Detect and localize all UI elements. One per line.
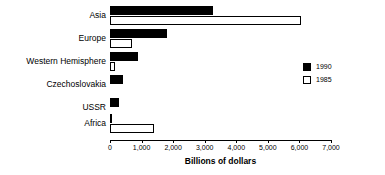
category-label-western-hemisphere: Western Hemisphere <box>26 57 106 66</box>
x-tick-1000 <box>142 140 143 143</box>
bar-chart: AsiaEuropeWestern HemisphereCzechoslovak… <box>0 0 385 175</box>
x-tick-label-6000: 6,000 <box>291 144 309 152</box>
x-axis-title: Billions of dollars <box>110 156 331 166</box>
bar-1990-czechoslovakia <box>110 75 123 84</box>
bar-1990-western-hemisphere <box>110 52 138 61</box>
category-label-africa: Africa <box>84 119 106 128</box>
x-tick-label-2000: 2,000 <box>164 144 182 152</box>
x-tick-4000 <box>236 140 237 143</box>
x-tick-3000 <box>205 140 206 143</box>
legend-label-1985: 1985 <box>316 76 332 84</box>
bar-1985-europe <box>110 39 132 48</box>
x-tick-2000 <box>173 140 174 143</box>
legend-swatch-1985 <box>303 76 311 84</box>
legend-swatch-1990 <box>303 63 311 71</box>
x-tick-5000 <box>268 140 269 143</box>
legend-label-1990: 1990 <box>316 63 332 71</box>
category-label-ussr: USSR <box>82 103 106 112</box>
bar-1990-africa <box>110 114 112 123</box>
legend-item-1985: 1985 <box>303 74 332 85</box>
x-tick-label-7000: 7,000 <box>322 144 340 152</box>
x-tick-label-4000: 4,000 <box>228 144 246 152</box>
plot-area <box>110 0 332 140</box>
category-label-europe: Europe <box>79 34 106 43</box>
x-tick-0 <box>110 140 111 143</box>
x-tick-7000 <box>331 140 332 143</box>
bar-1990-europe <box>110 29 167 38</box>
category-label-czechoslovakia: Czechoslovakia <box>46 80 106 89</box>
x-tick-label-0: 0 <box>108 144 112 152</box>
bar-1985-asia <box>110 16 301 25</box>
bar-1990-ussr <box>110 98 119 107</box>
category-label-asia: Asia <box>89 11 106 20</box>
legend: 1990 1985 <box>303 61 332 87</box>
x-axis-line <box>110 140 331 141</box>
x-tick-label-1000: 1,000 <box>133 144 151 152</box>
x-tick-label-5000: 5,000 <box>259 144 277 152</box>
legend-item-1990: 1990 <box>303 61 332 72</box>
x-tick-label-3000: 3,000 <box>196 144 214 152</box>
bar-1985-africa <box>110 124 154 133</box>
category-axis-labels: AsiaEuropeWestern HemisphereCzechoslovak… <box>0 0 106 140</box>
bar-1985-western-hemisphere <box>110 62 115 71</box>
x-tick-6000 <box>299 140 300 143</box>
bar-1990-asia <box>110 6 213 15</box>
